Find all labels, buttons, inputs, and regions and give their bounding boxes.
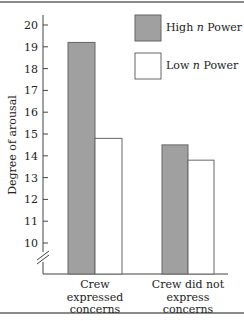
bar-low-power	[188, 160, 214, 274]
y-tick-label: 18	[24, 63, 38, 76]
x-category-label: concerns	[163, 303, 214, 316]
legend-swatch	[135, 15, 161, 41]
y-tick-label: 11	[24, 215, 38, 228]
x-category-label: concerns	[70, 303, 121, 316]
axis-break-mark	[37, 251, 49, 260]
legend-label: Low n Power	[166, 59, 239, 72]
bar-low-power	[95, 138, 122, 274]
y-tick-label: 15	[24, 128, 38, 141]
x-category-label: express	[167, 291, 210, 304]
bar-high-power	[162, 145, 188, 274]
bar-high-power	[68, 42, 95, 274]
x-category-label: Crew did not	[152, 278, 225, 291]
x-category-label: Crew	[80, 278, 110, 291]
y-tick-label: 13	[24, 172, 38, 185]
y-tick-label: 12	[24, 193, 38, 206]
y-tick-label: 14	[24, 150, 38, 163]
y-tick-label: 10	[24, 237, 38, 250]
bar-chart: 1011121314151617181920Degree of arousalC…	[0, 0, 244, 321]
legend-swatch	[135, 53, 161, 79]
legend-label: High n Power	[166, 21, 243, 34]
x-category-label: expressed	[67, 291, 123, 304]
y-tick-label: 17	[24, 84, 38, 97]
y-axis-label: Degree of arousal	[6, 95, 19, 195]
y-tick-label: 19	[24, 41, 38, 54]
y-tick-label: 20	[24, 19, 38, 32]
y-tick-label: 16	[24, 106, 38, 119]
